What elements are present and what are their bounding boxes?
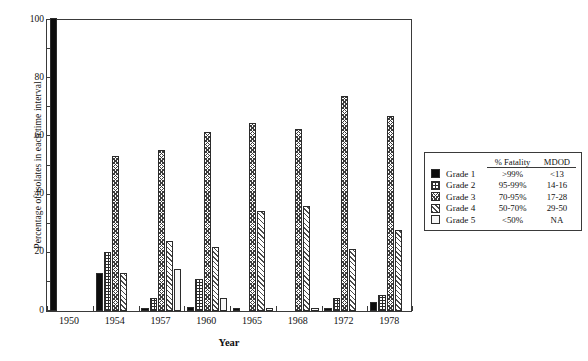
legend-swatch-cell [430,191,445,202]
x-tick-label-1968: 1968 [288,315,308,326]
legend-header-name [445,156,487,168]
legend-swatch-cell [430,168,445,180]
bar-group-1954 [96,20,136,311]
bar-1978-grade-1 [370,302,377,311]
bar-1950-grade-1 [50,18,57,311]
y-tick-label: 0 [39,305,44,315]
y-tick-label: 40 [35,188,45,198]
legend-header-mdod: MDOD [538,156,576,168]
chart-legend: % Fatality MDOD Grade 1>99%<13Grade 295-… [424,152,582,231]
legend-swatch-cell [430,214,445,225]
bar-1960-grade-3 [204,132,211,311]
bar-1968-grade-3 [295,129,302,311]
legend-row-grade-2[interactable]: Grade 295-99%14-16 [430,180,576,191]
bar-group-1957 [141,20,181,311]
bar-group-1965 [233,20,273,311]
legend-label-grade-5: Grade 5 [445,214,487,225]
bar-1957-grade-4 [166,241,173,311]
y-tick-label: 80 [35,72,45,82]
x-tick-4 [230,306,231,311]
legend-header-fatality: % Fatality [487,156,538,168]
bar-1965-grade-5 [266,308,273,311]
bar-1957-grade-3 [158,150,165,311]
bar-chart-figure: Percentage of isolates in each time inte… [0,0,588,361]
bar-1972-grade-2 [333,298,340,311]
bar-group-1972 [324,20,364,311]
bar-1972-grade-1 [324,308,331,311]
bar-1957-grade-2 [150,298,157,311]
x-tick-end [412,306,413,311]
x-tick-6 [322,306,323,311]
bar-1968-grade-4 [303,206,310,311]
legend-mdod-grade-2: 14-16 [538,180,576,191]
legend-swatch-cell [430,180,445,191]
grade-3-swatch [431,192,440,201]
plot-area: 020406080100 [46,19,412,312]
bar-1968-grade-5 [311,308,318,311]
bar-1957-grade-5 [174,269,181,311]
legend-mdod-grade-4: 29-50 [538,203,576,214]
bar-1978-grade-4 [395,230,402,311]
x-tick-label-1950: 1950 [59,315,79,326]
y-tick-label: 60 [35,130,45,140]
bar-1957-grade-1 [141,308,148,311]
legend-mdod-grade-1: <13 [538,168,576,180]
bar-group-1950 [50,20,90,311]
x-tick-2 [139,306,140,311]
bar-1954-grade-1 [96,273,103,311]
y-tick-label: 100 [30,14,44,24]
x-tick-label-1960: 1960 [196,315,216,326]
legend-body: Grade 1>99%<13Grade 295-99%14-16Grade 37… [430,168,576,225]
legend-swatch-cell [430,203,445,214]
bar-1972-grade-4 [349,249,356,311]
legend-row-grade-4[interactable]: Grade 450-70%29-50 [430,203,576,214]
x-tick-7 [367,306,368,311]
bar-1960-grade-2 [195,279,202,311]
legend-label-grade-4: Grade 4 [445,203,487,214]
legend-row-grade-5[interactable]: Grade 5<50%NA [430,214,576,225]
x-tick-label-1965: 1965 [242,315,262,326]
x-tick-3 [184,306,185,311]
x-tick-5 [276,306,277,311]
x-tick-label-1957: 1957 [150,315,170,326]
legend-fatality-grade-2: 95-99% [487,180,538,191]
x-tick-1 [93,306,94,311]
bar-1978-grade-2 [378,295,385,311]
legend-row-grade-3[interactable]: Grade 370-95%17-28 [430,191,576,202]
grade-1-swatch [431,169,440,178]
bar-1954-grade-3 [112,156,119,311]
bar-1960-grade-1 [187,307,194,311]
legend-fatality-grade-3: 70-95% [487,191,538,202]
legend-fatality-grade-4: 50-70% [487,203,538,214]
bar-group-1960 [187,20,227,311]
legend-row-grade-1[interactable]: Grade 1>99%<13 [430,168,576,180]
x-tick-label-1954: 1954 [105,315,125,326]
legend-header-swatch [430,156,445,168]
legend-mdod-grade-5: NA [538,214,576,225]
bar-1965-grade-4 [257,211,264,311]
bar-group-1978 [370,20,410,311]
legend-table: % Fatality MDOD Grade 1>99%<13Grade 295-… [430,156,576,225]
x-tick-label-1972: 1972 [333,315,353,326]
bar-1954-grade-4 [120,273,127,311]
bar-1965-grade-3 [249,123,256,311]
legend-fatality-grade-5: <50% [487,214,538,225]
bar-1972-grade-3 [341,96,348,311]
legend-mdod-grade-3: 17-28 [538,191,576,202]
grade-4-swatch [431,204,440,213]
bar-1960-grade-5 [220,298,227,311]
x-tick-0 [47,306,48,311]
bar-1978-grade-3 [387,116,394,311]
bar-group-1968 [279,20,319,311]
bar-1965-grade-1 [233,308,240,311]
legend-label-grade-2: Grade 2 [445,180,487,191]
bar-1954-grade-2 [104,252,111,311]
grade-2-swatch [431,181,440,190]
grade-5-swatch [431,215,440,224]
x-tick-label-1978: 1978 [379,315,399,326]
bar-1960-grade-4 [212,247,219,311]
legend-label-grade-3: Grade 3 [445,191,487,202]
legend-fatality-grade-1: >99% [487,168,538,180]
legend-header-row: % Fatality MDOD [430,156,576,168]
x-axis-title: Year [46,337,412,348]
